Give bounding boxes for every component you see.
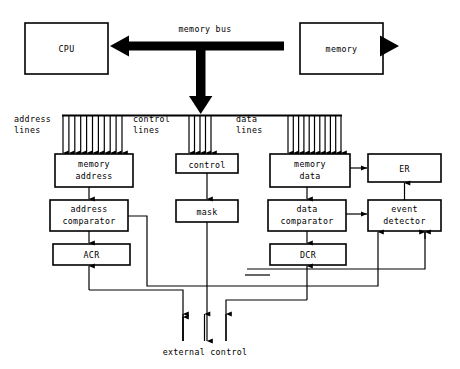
data-lines-label-line1: data	[236, 114, 257, 124]
dcr-block: DCR	[270, 244, 346, 265]
data-lines-label-line2: lines	[236, 125, 262, 135]
data-comparator-block: data comparator	[268, 200, 346, 231]
dcr-label: DCR	[300, 250, 316, 260]
data-lines-label: data lines	[236, 114, 262, 135]
address-comparator-label-line1: address	[70, 204, 107, 214]
memory-address-label-line2: address	[75, 171, 112, 181]
mask-block: mask	[176, 200, 238, 222]
memory-address-block: memory address	[55, 154, 133, 187]
wire-external-control-to-dcr	[226, 266, 307, 341]
acr-block: ACR	[53, 244, 130, 265]
event-detector-label-line2: detector	[383, 216, 425, 226]
data-lines-bundle	[288, 116, 341, 153]
address-lines-label: address lines	[14, 114, 51, 135]
er-block: ER	[368, 154, 441, 182]
block-diagram-canvas: CPU memory memory bus address lines cont…	[0, 0, 460, 369]
control-lines-bundle	[189, 116, 211, 153]
address-comparator-label-line2: comparator	[63, 216, 116, 226]
memory-address-label-line1: memory	[78, 159, 110, 169]
address-lines-bundle	[63, 116, 122, 153]
er-label: ER	[399, 164, 410, 174]
external-control-label: external control	[163, 347, 248, 357]
control-lines-label-line2: lines	[133, 125, 159, 135]
memory-block: memory	[300, 23, 383, 74]
memory-bus-left-arrowhead	[110, 36, 129, 57]
event-detector-block: event detector	[368, 200, 441, 231]
address-comparator-block: address comparator	[50, 200, 128, 231]
memory-data-label-line2: data	[299, 171, 320, 181]
memory-bus-right-arrowhead	[380, 36, 399, 57]
memory-bus-vertical-stem	[196, 46, 206, 100]
memory-data-label-line1: memory	[294, 159, 326, 169]
wire-external-control-to-acr	[89, 290, 183, 341]
control-block: control	[176, 154, 238, 173]
control-lines-label: control lines	[133, 114, 170, 135]
event-detector-label-line1: event	[391, 204, 417, 214]
mask-label: mask	[196, 207, 217, 217]
cpu-label: CPU	[59, 44, 75, 54]
acr-label: ACR	[84, 250, 100, 260]
address-lines-label-line1: address	[14, 114, 51, 124]
external-control-stubs	[183, 314, 226, 341]
control-lines-label-line1: control	[133, 114, 170, 124]
block-diagram-svg: CPU memory memory bus address lines cont…	[0, 0, 460, 369]
memory-bus-down-arrowhead	[189, 96, 212, 114]
cpu-block: CPU	[25, 23, 108, 74]
memory-bus-label: memory bus	[179, 24, 232, 34]
address-lines-label-line2: lines	[14, 125, 40, 135]
memory-label: memory	[326, 44, 358, 54]
control-label: control	[188, 160, 225, 170]
data-comparator-label-line1: data	[296, 204, 317, 214]
data-comparator-label-line2: comparator	[281, 216, 334, 226]
memory-data-block: memory data	[270, 154, 350, 187]
